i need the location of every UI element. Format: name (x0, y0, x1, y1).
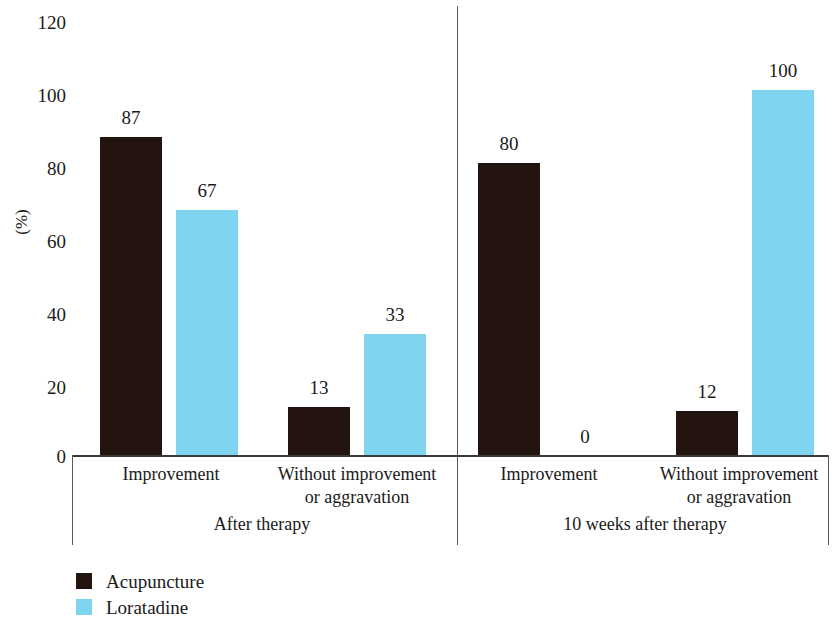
legend-swatch-acupuncture (76, 573, 92, 589)
category-label-line1: Without improvement (640, 463, 834, 486)
category-label-without-improvement-after: Without improvement or aggravation (258, 463, 456, 509)
category-label-line2: or aggravation (258, 486, 456, 509)
legend: Acupuncture Loratadine (76, 568, 204, 620)
label-box-left-border (72, 455, 73, 545)
category-label-improvement-after: Improvement (99, 463, 243, 486)
category-label-improvement-10weeks: Improvement (477, 463, 621, 486)
bar-acupuncture-without-improvement-10weeks (676, 411, 738, 455)
bar-value-67: 67 (177, 181, 237, 200)
group-label-after-therapy: After therapy (137, 513, 387, 535)
bar-chart: (%) 120 100 80 60 40 20 0 87 67 13 33 80… (0, 0, 834, 630)
y-tick-label-40: 40 (22, 305, 66, 324)
y-tick-label-100: 100 (22, 86, 66, 105)
bar-value-100: 100 (748, 61, 818, 80)
y-tick-label-80: 80 (22, 159, 66, 178)
bar-acupuncture-without-improvement-after (288, 407, 350, 455)
bar-value-80: 80 (479, 134, 539, 153)
category-label-without-improvement-10weeks: Without improvement or aggravation (640, 463, 834, 509)
bar-acupuncture-improvement-after (100, 137, 162, 455)
bar-value-13: 13 (289, 378, 349, 397)
y-tick-label-60: 60 (22, 232, 66, 251)
legend-item-loratadine: Loratadine (76, 594, 204, 620)
bar-value-12: 12 (677, 382, 737, 401)
bar-loratadine-without-improvement-after (364, 334, 426, 455)
legend-label-acupuncture: Acupuncture (106, 572, 204, 591)
legend-label-loratadine: Loratadine (106, 598, 188, 617)
y-tick-label-20: 20 (22, 378, 66, 397)
bar-acupuncture-improvement-10weeks (478, 163, 540, 455)
panel-divider-line (457, 6, 458, 545)
category-label-line2: or aggravation (640, 486, 834, 509)
bar-loratadine-without-improvement-10weeks (752, 90, 814, 455)
y-tick-label-120: 120 (22, 13, 66, 32)
group-label-10-weeks-after-therapy: 10 weeks after therapy (520, 513, 770, 535)
bar-value-87: 87 (101, 108, 161, 127)
y-tick-label-0: 0 (22, 447, 66, 466)
bar-value-0: 0 (555, 427, 615, 446)
category-label-line1: Without improvement (258, 463, 456, 486)
x-axis-baseline (72, 455, 829, 457)
legend-item-acupuncture: Acupuncture (76, 568, 204, 594)
bar-value-33: 33 (365, 305, 425, 324)
bar-loratadine-improvement-after (176, 210, 238, 455)
legend-swatch-loratadine (76, 599, 92, 615)
